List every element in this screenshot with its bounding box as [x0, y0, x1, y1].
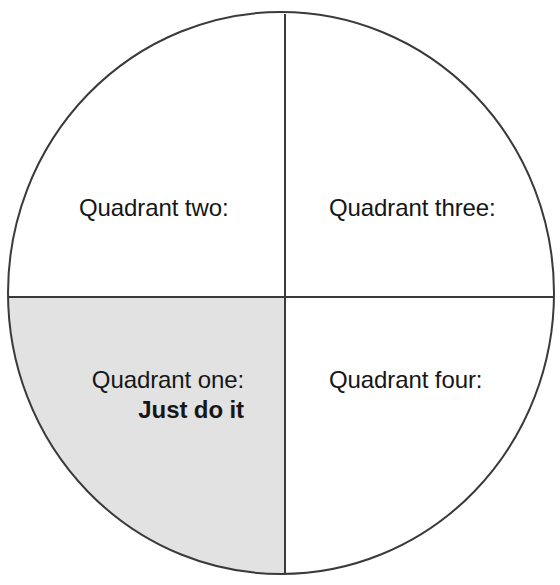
quadrant-diagram: Quadrant two: Quadrant three: Quadrant o… [0, 0, 560, 585]
quadrant-one-shaded-region [8, 297, 285, 574]
quadrant-circle-graphic [0, 0, 560, 585]
